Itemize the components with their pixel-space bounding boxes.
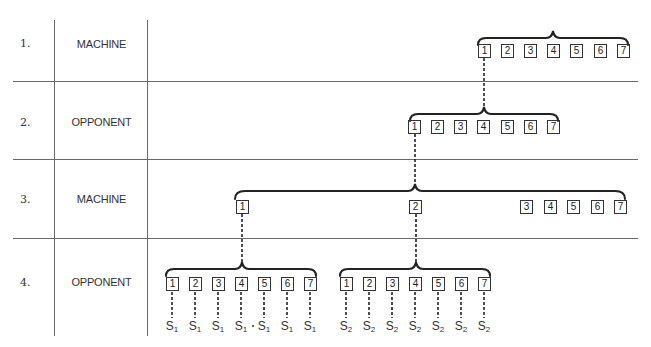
level4-g1-move-6: 6 [281, 277, 294, 291]
brace-level4-group1 [166, 262, 316, 276]
level4-g1-move-1: 1 [166, 277, 179, 291]
level4-g1-move-3: 3 [212, 277, 225, 291]
leaf-s2: S2 [474, 319, 494, 334]
level3-move-5: 5 [567, 200, 580, 214]
level2-move-1: 1 [408, 120, 421, 134]
level4-g2-move-3: 3 [386, 277, 399, 291]
level4-g2-move-6: 6 [455, 277, 468, 291]
leaf-s1: S1 [185, 319, 205, 334]
level3-move-7: 7 [614, 200, 627, 214]
level1-move-4: 4 [547, 44, 560, 58]
level4-g2-move-7: 7 [478, 277, 491, 291]
level3-move-6: 6 [591, 200, 604, 214]
level1-move-7: 7 [617, 44, 630, 58]
level1-move-1: 1 [478, 44, 491, 58]
level2-move-2: 2 [431, 120, 444, 134]
level3-move-4: 4 [544, 200, 557, 214]
level3-move-1: 1 [236, 200, 249, 214]
level4-g2-move-4: 4 [409, 277, 422, 291]
leaf-s2: S2 [336, 319, 356, 334]
leaf-s2: S2 [382, 319, 402, 334]
brace-level3 [235, 184, 625, 199]
brace-level4-group2 [340, 262, 490, 276]
leaf-s1: S1 [300, 319, 320, 334]
leaf-s1: S1 [277, 319, 297, 334]
level4-g2-move-5: 5 [432, 277, 445, 291]
level4-g1-move-7: 7 [304, 277, 317, 291]
level4-g1-move-4: 4 [235, 277, 248, 291]
leaf-s1: S1 [231, 319, 251, 334]
level4-g1-move-2: 2 [189, 277, 202, 291]
leaf-s1: S1 [162, 319, 182, 334]
level1-move-5: 5 [570, 44, 583, 58]
leaf-s2: S2 [405, 319, 425, 334]
level2-move-6: 6 [524, 120, 537, 134]
level4-g2-move-2: 2 [363, 277, 376, 291]
level1-move-3: 3 [524, 44, 537, 58]
level4-g2-move-1: 1 [340, 277, 353, 291]
level3-move-2: 2 [409, 200, 422, 214]
leaf-s2: S2 [428, 319, 448, 334]
level4-g1-move-5: 5 [258, 277, 271, 291]
leaf-s1: S1 [208, 319, 228, 334]
level1-move-6: 6 [594, 44, 607, 58]
leaf-s2: S2 [451, 319, 471, 334]
level2-move-3: 3 [454, 120, 467, 134]
level2-move-4: 4 [477, 120, 490, 134]
leaf-s1: S1 [254, 319, 274, 334]
level2-move-5: 5 [501, 120, 514, 134]
leaf-s2: S2 [359, 319, 379, 334]
level3-move-3: 3 [520, 200, 533, 214]
level1-move-2: 2 [501, 44, 514, 58]
level2-move-7: 7 [547, 120, 560, 134]
brace-level2 [410, 107, 558, 121]
brace-level1 [478, 31, 628, 45]
